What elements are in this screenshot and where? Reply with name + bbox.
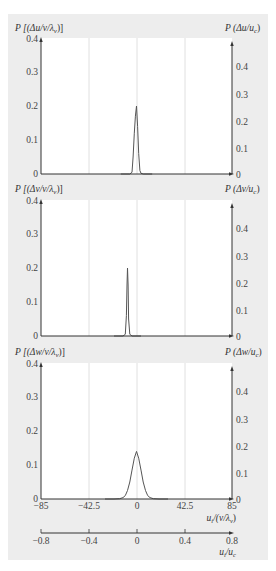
svg-text:0.4: 0.4 xyxy=(236,62,248,72)
y-ticks-left: 0.4 0.3 0.2 0.1 0 xyxy=(26,359,38,504)
svg-text:0: 0 xyxy=(236,495,241,505)
plot-area xyxy=(41,363,232,499)
svg-text:0.3: 0.3 xyxy=(236,252,248,262)
x-axis-label: ui/(ν/λν) xyxy=(207,513,236,524)
svg-text:−0.8: −0.8 xyxy=(32,536,49,546)
svg-text:0.4: 0.4 xyxy=(26,34,38,44)
svg-text:0.2: 0.2 xyxy=(26,426,38,436)
plot-area xyxy=(41,200,232,336)
svg-text:−85: −85 xyxy=(34,501,49,511)
svg-text:0.1: 0.1 xyxy=(236,144,248,154)
svg-text:0.1: 0.1 xyxy=(236,469,248,479)
svg-text:0.1: 0.1 xyxy=(236,306,248,316)
svg-text:0.2: 0.2 xyxy=(236,279,248,289)
svg-text:0.2: 0.2 xyxy=(236,442,248,452)
plot-delta-v: P [(Δv/ν/λν)] P (Δv/uc) 0.4 0.3 0.2 0.1 … xyxy=(14,184,260,342)
svg-text:0.3: 0.3 xyxy=(236,415,248,425)
svg-text:0: 0 xyxy=(236,332,241,342)
y-axis-right-label: P (Δu/uc) xyxy=(224,23,260,35)
svg-text:0: 0 xyxy=(135,501,140,511)
svg-text:0.2: 0.2 xyxy=(236,117,248,127)
svg-text:0.1: 0.1 xyxy=(26,460,38,470)
svg-text:0.3: 0.3 xyxy=(26,392,38,402)
y-ticks-left: 0.4 0.3 0.2 0.1 0 xyxy=(26,34,38,179)
y-ticks-right: 0.4 0.3 0.2 0.1 0 xyxy=(236,387,248,505)
axis-arrow-icon xyxy=(229,531,234,534)
svg-text:0.8: 0.8 xyxy=(226,536,238,546)
svg-text:0: 0 xyxy=(33,331,38,341)
svg-text:42.5: 42.5 xyxy=(177,501,194,511)
svg-text:0.1: 0.1 xyxy=(26,135,38,145)
x-ticks: −85 −42.5 0 42.5 85 xyxy=(34,501,237,511)
y-axis-left-label: P [(Δw/ν/λν)] xyxy=(14,347,65,359)
y-ticks-right: 0.4 0.3 0.2 0.1 0 xyxy=(236,62,248,180)
y-axis-left-label: P [(Δv/ν/λν)] xyxy=(14,184,63,196)
svg-text:0: 0 xyxy=(33,169,38,179)
svg-text:−42.5: −42.5 xyxy=(78,501,100,511)
svg-text:0: 0 xyxy=(236,170,241,180)
y-axis-right-label: P (Δw/uc) xyxy=(224,347,262,359)
x-axis-2-label: ui/uc xyxy=(219,547,236,558)
plot-delta-w: P [(Δw/ν/λν)] P (Δw/uc) 0.4 0.3 0.2 0.1 … xyxy=(14,347,262,524)
svg-text:0.2: 0.2 xyxy=(26,263,38,273)
pdf-figure: P [(Δu/ν/λν)] P (Δu/uc) 0.4 0.3 0.2 0.1 … xyxy=(0,0,276,571)
svg-text:0.4: 0.4 xyxy=(179,536,191,546)
y-axis-left-label: P [(Δu/ν/λν)] xyxy=(14,23,63,35)
svg-text:0.3: 0.3 xyxy=(26,229,38,239)
svg-text:0: 0 xyxy=(135,536,140,546)
svg-text:0.1: 0.1 xyxy=(26,297,38,307)
svg-text:0.4: 0.4 xyxy=(236,387,248,397)
svg-text:85: 85 xyxy=(227,501,237,511)
svg-text:0.4: 0.4 xyxy=(26,196,38,206)
svg-text:0.4: 0.4 xyxy=(236,224,248,234)
svg-text:0.2: 0.2 xyxy=(26,101,38,111)
svg-text:0.3: 0.3 xyxy=(236,90,248,100)
y-axis-right-label: P (Δv/uc) xyxy=(224,184,260,196)
svg-text:0.3: 0.3 xyxy=(26,67,38,77)
y-ticks-left: 0.4 0.3 0.2 0.1 0 xyxy=(26,196,38,341)
secondary-x-axis: −0.8 −0.4 0 0.4 0.8 ui/uc xyxy=(32,529,238,558)
plot-delta-u: P [(Δu/ν/λν)] P (Δu/uc) 0.4 0.3 0.2 0.1 … xyxy=(14,23,260,180)
y-ticks-right: 0.4 0.3 0.2 0.1 0 xyxy=(236,224,248,342)
svg-text:0.4: 0.4 xyxy=(26,359,38,369)
svg-text:−0.4: −0.4 xyxy=(80,536,97,546)
